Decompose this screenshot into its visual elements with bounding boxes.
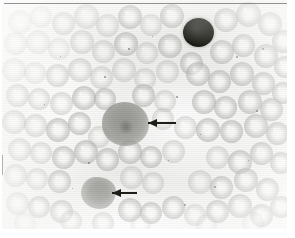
central-pallor — [234, 155, 239, 160]
central-pallor — [80, 145, 85, 150]
central-pallor — [256, 147, 261, 152]
central-pallor — [240, 173, 245, 178]
stain-speck — [214, 186, 216, 188]
central-pallor — [52, 69, 57, 74]
central-pallor — [58, 17, 63, 22]
erythrocyte — [4, 32, 27, 55]
erythrocyte — [48, 170, 71, 193]
erythrocyte — [48, 38, 70, 60]
stain-speck — [262, 48, 264, 50]
central-pallor — [98, 45, 103, 50]
erythrocyte — [8, 10, 32, 34]
central-pallor — [29, 66, 34, 70]
central-pallor — [54, 175, 59, 180]
central-pallor — [33, 92, 38, 96]
erythrocyte — [174, 116, 197, 139]
central-pallor — [145, 18, 150, 22]
central-pallor — [139, 72, 144, 76]
erythrocyte — [186, 62, 210, 86]
central-pallor — [10, 37, 15, 42]
central-pallor — [52, 123, 57, 128]
stain-speck — [88, 162, 90, 164]
erythrocyte — [120, 166, 143, 189]
stain-speck — [44, 104, 45, 105]
erythrocyte — [232, 34, 255, 57]
erythrocyte — [140, 14, 162, 36]
erythrocyte — [244, 114, 268, 138]
erythrocyte — [112, 58, 136, 82]
central-pallor — [226, 125, 231, 130]
erythrocyte — [234, 168, 258, 192]
central-pallor — [202, 123, 207, 128]
central-pallor — [166, 9, 171, 14]
erythrocyte — [68, 58, 92, 82]
erythrocyte — [96, 148, 119, 171]
central-pallor — [168, 201, 173, 206]
stain-speck — [72, 188, 73, 189]
stain-speck — [256, 110, 258, 112]
central-pallor — [157, 112, 162, 116]
central-pallor — [58, 151, 63, 156]
erythrocyte — [230, 62, 254, 86]
cell-nucleus — [118, 120, 134, 133]
central-pallor — [19, 216, 24, 220]
central-pallor — [32, 35, 37, 40]
central-pallor — [138, 89, 143, 94]
central-pallor — [236, 67, 241, 72]
central-pallor — [212, 205, 217, 210]
plate-left-mark — [2, 155, 3, 175]
erythrocyte — [266, 122, 289, 145]
central-pallor — [74, 117, 79, 122]
central-pallor — [97, 216, 102, 220]
central-pallor — [272, 127, 277, 132]
central-pallor — [78, 91, 83, 96]
central-pallor — [250, 119, 255, 124]
erythrocyte — [220, 120, 243, 143]
central-pallor — [220, 101, 225, 106]
central-pallor — [216, 181, 221, 186]
erythrocyte — [70, 30, 94, 54]
central-pallor — [53, 42, 58, 46]
erythrocyte — [214, 8, 238, 32]
central-pallor — [244, 95, 249, 100]
erythrocyte — [210, 40, 234, 64]
erythrocyte — [72, 86, 96, 110]
erythrocyte — [8, 138, 31, 161]
central-pallor — [145, 206, 150, 210]
central-pallor — [275, 156, 280, 160]
central-pallor — [264, 17, 269, 22]
central-pallor — [145, 150, 150, 154]
central-pallor — [275, 200, 280, 204]
dark-stained-nucleated-cell — [183, 18, 214, 47]
plate-left-margin — [0, 0, 2, 238]
erythrocyte — [158, 34, 182, 58]
erythrocyte — [50, 92, 73, 115]
plate-right-margin — [287, 0, 295, 238]
central-pallor — [74, 63, 79, 68]
central-pallor — [279, 60, 284, 64]
central-pallor — [76, 35, 81, 40]
central-pallor — [189, 208, 194, 212]
erythrocyte — [26, 168, 48, 190]
stain-speck — [152, 36, 153, 37]
erythrocyte — [2, 58, 26, 82]
plate-top-edge — [4, 3, 288, 4]
erythrocyte — [74, 140, 98, 164]
central-pallor — [159, 94, 164, 98]
erythrocyte — [140, 146, 162, 168]
erythrocyte — [118, 5, 142, 29]
central-pallor — [238, 39, 243, 44]
central-pallor — [186, 57, 191, 62]
central-pallor — [118, 63, 123, 68]
central-pallor — [14, 15, 19, 20]
erythrocyte — [30, 6, 52, 28]
erythrocyte — [90, 66, 113, 89]
central-pallor — [8, 115, 13, 120]
central-pallor — [258, 77, 263, 82]
central-pallor — [135, 218, 140, 222]
stain-speck — [168, 160, 169, 161]
erythrocyte — [114, 32, 138, 56]
central-pallor — [180, 121, 185, 126]
central-pallor — [234, 199, 239, 204]
central-pallor — [266, 103, 271, 108]
